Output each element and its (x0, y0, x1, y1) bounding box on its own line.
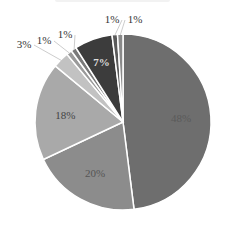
leader-line-4 (54, 41, 70, 53)
slice-label-1: 20% (85, 167, 105, 179)
slice-label-3: 3% (17, 38, 32, 50)
pie-slice-0 (123, 34, 211, 209)
leader-line-3 (34, 45, 62, 61)
slice-label-2: 18% (55, 109, 75, 121)
slice-label-5: 1% (58, 28, 73, 40)
slice-label-6: 7% (93, 56, 110, 68)
pie-chart: 48%20%18%3%1%1%7%1%1% (0, 0, 227, 226)
slice-label-7: 1% (105, 13, 120, 25)
slice-label-0: 48% (171, 112, 191, 124)
slice-label-4: 1% (37, 34, 52, 46)
slice-label-8: 1% (128, 13, 143, 25)
